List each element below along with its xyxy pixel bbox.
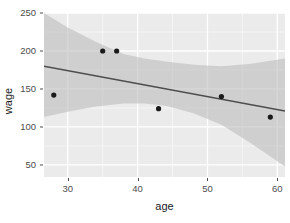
- plot-canvas: [44, 13, 285, 177]
- data-point: [268, 114, 273, 119]
- x-tick-mark: [207, 178, 208, 181]
- scatter-plot-figure: 50 100 150 200 250 30 40 50 60 age wage: [0, 0, 290, 223]
- y-tick-label: 50: [0, 160, 36, 170]
- y-axis-title: wage: [2, 71, 14, 131]
- y-tick-label: 250: [0, 8, 36, 18]
- x-tick-label: 40: [132, 184, 143, 194]
- x-axis-title: age: [44, 200, 285, 212]
- x-tick-mark: [68, 178, 69, 181]
- data-point: [219, 94, 224, 99]
- y-tick-mark: [40, 126, 43, 127]
- x-tick-label: 60: [272, 184, 283, 194]
- y-tick-label: 200: [0, 46, 36, 56]
- data-point: [114, 48, 119, 53]
- data-point: [51, 92, 56, 97]
- data-point: [100, 48, 105, 53]
- y-tick-mark: [40, 88, 43, 89]
- data-point: [156, 106, 161, 111]
- y-tick-mark: [40, 164, 43, 165]
- confidence-band: [44, 13, 285, 166]
- x-tick-label: 30: [62, 184, 73, 194]
- x-tick-mark: [138, 178, 139, 181]
- x-tick-label: 50: [202, 184, 213, 194]
- y-tick-mark: [40, 13, 43, 14]
- y-tick-mark: [40, 50, 43, 51]
- plot-panel: [44, 13, 285, 177]
- x-tick-mark: [277, 178, 278, 181]
